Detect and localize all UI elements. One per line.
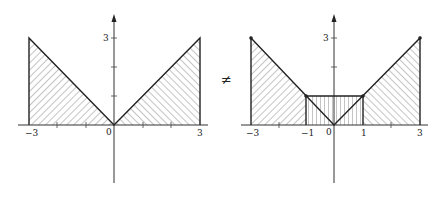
tick-label-origin: 0 — [326, 127, 332, 137]
diagram-canvas: −3 0 3 3 ≠ −3 −1 0 1 3 3 — [0, 0, 440, 198]
point-3-3 — [418, 36, 422, 40]
point-neg3-3 — [249, 36, 253, 40]
tick-label-neg3: −3 — [25, 128, 39, 138]
point-1-1 — [361, 94, 365, 98]
y-axis-arrow-icon — [332, 14, 337, 22]
right-graph: −3 −1 0 1 3 3 — [241, 14, 428, 183]
right-region-right-trapezoid — [363, 38, 420, 125]
tick-label-3: 3 — [197, 128, 203, 138]
tick-label-y3: 3 — [103, 33, 109, 43]
tick-label-y3: 3 — [323, 33, 329, 43]
point-neg1-1 — [304, 94, 308, 98]
not-equal-symbol: ≠ — [221, 72, 232, 87]
tick-label-neg1: −1 — [301, 128, 314, 138]
left-graph: −3 0 3 3 — [18, 14, 208, 183]
right-region-left-trapezoid — [251, 38, 306, 125]
tick-label-neg3: −3 — [246, 128, 260, 138]
tick-label-origin: 0 — [106, 127, 112, 137]
tick-label-1: 1 — [361, 128, 367, 138]
tick-label-3: 3 — [417, 128, 423, 138]
y-axis-arrow-icon — [112, 14, 117, 22]
